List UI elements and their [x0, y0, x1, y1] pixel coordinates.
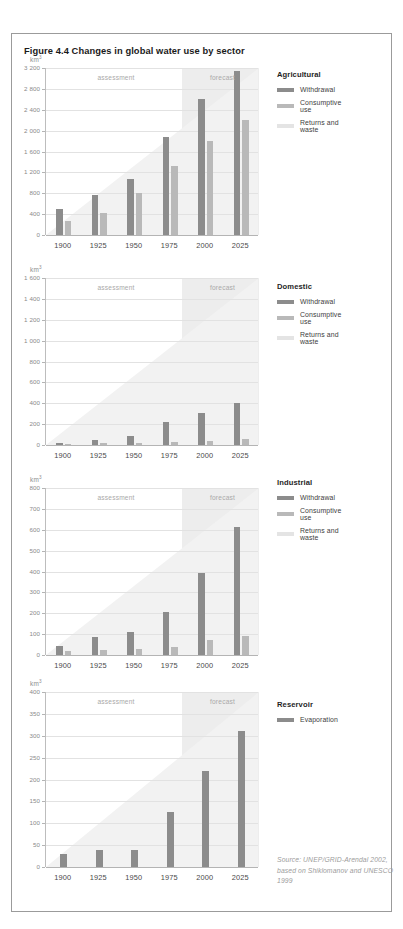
- bar-agricultural-consumptive-1950: [136, 193, 143, 235]
- gridline: [46, 613, 258, 614]
- y-axis-tick-label: 100: [5, 630, 40, 637]
- y-axis-tick-label: 2 000: [5, 127, 40, 134]
- bar-industrial-withdrawal-2000: [198, 573, 205, 655]
- legend-swatch-icon: [277, 316, 294, 320]
- gridline: [46, 758, 258, 759]
- y-axis-tick-mark: [42, 634, 45, 635]
- legend-item-label: Withdrawal: [300, 494, 335, 501]
- bar-domestic-consumptive-1950: [136, 443, 143, 445]
- phase-label-forecast: forecast: [187, 698, 258, 705]
- gridline: [46, 780, 258, 781]
- legend-item-label: Consumptive use: [300, 99, 341, 113]
- plot-area: [45, 488, 258, 655]
- y-axis-tick-mark: [42, 403, 45, 404]
- gridline: [46, 382, 258, 383]
- legend-item-label: Withdrawal: [300, 298, 335, 305]
- y-axis-tick-mark: [42, 235, 45, 236]
- bar-domestic-consumptive-2025: [242, 439, 249, 445]
- y-axis-tick-mark: [42, 592, 45, 593]
- y-axis-tick-mark: [42, 172, 45, 173]
- x-axis-tick-label-1900: 1900: [45, 241, 81, 250]
- legend-item: Consumptive use: [277, 99, 341, 113]
- y-axis-tick-label: 1 200: [5, 168, 40, 175]
- plot-area: [45, 278, 258, 445]
- gridline: [46, 634, 258, 635]
- x-axis-line: [46, 655, 258, 656]
- phase-label-assessment: assessment: [45, 74, 187, 81]
- bar-industrial-consumptive-1950: [136, 649, 143, 655]
- y-axis-unit: km3: [30, 475, 42, 483]
- legend-item: Consumptive use: [277, 507, 341, 521]
- y-axis-tick-label: 300: [5, 588, 40, 595]
- x-axis-tick-label-1900: 1900: [45, 873, 81, 882]
- bar-industrial-withdrawal-1925: [92, 637, 99, 655]
- y-axis-unit-exponent: 3: [39, 55, 42, 60]
- gridline: [46, 692, 258, 693]
- gridline: [46, 801, 258, 802]
- y-axis-tick-mark: [42, 299, 45, 300]
- y-axis-tick-label: 0: [5, 651, 40, 658]
- legend-item: Returns and waste: [277, 331, 341, 345]
- legend-swatch-icon: [277, 124, 294, 128]
- y-axis-tick-mark: [42, 867, 45, 868]
- y-axis-tick-label: 0: [5, 231, 40, 238]
- x-axis-tick-label-1925: 1925: [81, 661, 117, 670]
- gridline: [46, 424, 258, 425]
- gridline: [46, 320, 258, 321]
- bar-agricultural-withdrawal-2000: [198, 99, 205, 235]
- y-axis-tick-mark: [42, 530, 45, 531]
- y-axis-tick-label: 1 600: [5, 148, 40, 155]
- y-axis-tick-mark: [42, 341, 45, 342]
- y-axis-unit-text: km: [30, 56, 39, 63]
- y-axis-unit-exponent: 3: [39, 679, 42, 684]
- legend-swatch-icon: [277, 496, 294, 500]
- legend-domestic: DomesticWithdrawalConsumptive useReturns…: [277, 282, 341, 351]
- phase-label-assessment: assessment: [45, 494, 187, 501]
- x-axis-line: [46, 867, 258, 868]
- bar-agricultural-consumptive-1925: [100, 213, 107, 235]
- legend-item: Withdrawal: [277, 86, 341, 93]
- legend-item: Withdrawal: [277, 494, 341, 501]
- legend-item-label: Consumptive use: [300, 507, 341, 521]
- y-axis-unit: km3: [30, 55, 42, 63]
- gridline: [46, 152, 258, 153]
- x-axis-tick-label-2000: 2000: [187, 873, 223, 882]
- y-axis-tick-mark: [42, 445, 45, 446]
- y-axis-tick-label: 800: [5, 189, 40, 196]
- bar-reservoir-evaporation-1975: [167, 812, 174, 867]
- phase-label-forecast: forecast: [187, 284, 258, 291]
- x-axis-tick-label-2025: 2025: [223, 873, 259, 882]
- bar-industrial-withdrawal-1975: [163, 612, 170, 655]
- y-axis-tick-label: 300: [5, 732, 40, 739]
- legend-title: Agricultural: [277, 70, 341, 79]
- y-axis-tick-label: 400: [5, 399, 40, 406]
- x-axis-tick-label-1950: 1950: [116, 451, 152, 460]
- y-axis-tick-label: 100: [5, 819, 40, 826]
- y-axis-tick-label: 2 400: [5, 106, 40, 113]
- plot-area: [45, 692, 258, 867]
- y-axis-tick-label: 600: [5, 526, 40, 533]
- bar-domestic-consumptive-1900: [65, 444, 72, 445]
- y-axis-tick-label: 400: [5, 568, 40, 575]
- y-axis-tick-label: 800: [5, 358, 40, 365]
- legend-item-label: Returns and waste: [300, 331, 341, 345]
- x-axis-tick-label-1975: 1975: [152, 873, 188, 882]
- bar-agricultural-consumptive-1900: [65, 221, 72, 235]
- bar-agricultural-withdrawal-1975: [163, 137, 170, 235]
- x-axis-tick-label-1925: 1925: [81, 451, 117, 460]
- y-axis-tick-mark: [42, 655, 45, 656]
- bar-domestic-consumptive-1925: [100, 443, 107, 445]
- gridline: [46, 193, 258, 194]
- y-axis-tick-mark: [42, 214, 45, 215]
- y-axis-tick-mark: [42, 424, 45, 425]
- y-axis-tick-label: 1 000: [5, 337, 40, 344]
- bar-domestic-consumptive-1975: [171, 442, 178, 445]
- bar-agricultural-withdrawal-1925: [92, 195, 99, 235]
- bar-domestic-withdrawal-2000: [198, 413, 205, 445]
- x-axis-tick-label-1975: 1975: [152, 241, 188, 250]
- x-axis-tick-label-1975: 1975: [152, 451, 188, 460]
- y-axis-tick-mark: [42, 320, 45, 321]
- x-axis-tick-label-1925: 1925: [81, 241, 117, 250]
- bar-agricultural-withdrawal-2025: [234, 71, 241, 235]
- legend-swatch-icon: [277, 104, 294, 108]
